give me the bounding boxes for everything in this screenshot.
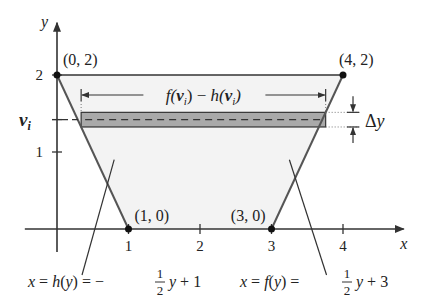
vertex-point-label: (3, 0) [231, 207, 266, 225]
vertex-point-label: (4, 2) [339, 51, 374, 69]
h-equation-rhs: y + 1 [167, 273, 201, 291]
h-equation-numerator: 1 [157, 266, 164, 281]
horizontal-strip [81, 112, 326, 127]
y-axis-label: y [39, 13, 49, 31]
strip-y-label: vi [19, 109, 31, 133]
delta-y-label: Δy [365, 111, 385, 131]
x-tick-label: 2 [196, 238, 204, 254]
vertex-point [54, 72, 61, 79]
f-equation-denominator: 2 [344, 283, 351, 298]
diagram-canvas: x y 1234 12 vi (0, 2)(4, 2)(1, 0)(3, 0) … [0, 0, 437, 308]
y-ticks: 12 [36, 67, 63, 160]
x-tick-label: 3 [268, 238, 276, 254]
vertex-point [125, 226, 132, 233]
x-tick-label: 1 [125, 238, 133, 254]
h-equation-leader-line [82, 160, 114, 275]
f-equation-leader-line [289, 160, 326, 275]
h-equation-lhs: x = h(y) = − [27, 273, 104, 291]
f-equation-lhs: x = f(y) = [239, 273, 299, 291]
vertex-point [340, 72, 347, 79]
f-equation-numerator: 1 [344, 266, 351, 281]
h-equation-denominator: 2 [157, 283, 164, 298]
strip-width-label: f(vi) − h(vi) [166, 86, 242, 107]
x-axis-label: x [399, 235, 407, 252]
y-tick-label: 1 [36, 144, 44, 160]
y-tick-label: 2 [36, 67, 44, 83]
f-equation: x = f(y) = 1 2 y + 3 [239, 266, 388, 298]
h-equation: x = h(y) = − 1 2 y + 1 [27, 266, 201, 298]
vertex-point-label: (1, 0) [135, 207, 170, 225]
x-tick-label: 4 [339, 238, 347, 254]
vertex-point [268, 226, 275, 233]
vertex-point-label: (0, 2) [63, 51, 98, 69]
f-equation-rhs: y + 3 [354, 273, 388, 291]
